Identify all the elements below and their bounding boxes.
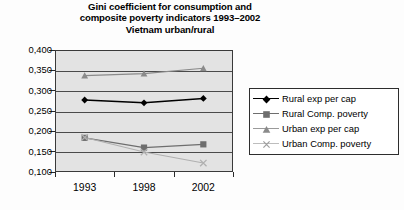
series-rural-comp-poverty xyxy=(82,135,207,151)
legend-marker-diamond-icon xyxy=(253,93,279,105)
y-tick-label: 0,150 xyxy=(6,147,52,156)
y-tick-label: 0,400 xyxy=(6,45,52,54)
series-urban-exp-per-cap xyxy=(81,65,206,79)
legend-label: Rural Comp. poverty xyxy=(279,109,368,119)
x-tick-mark xyxy=(233,172,234,177)
data-point xyxy=(200,95,207,102)
data-point xyxy=(200,141,206,147)
data-point xyxy=(141,99,148,106)
legend-item-urban-comp-poverty: Urban Comp. poverty xyxy=(253,136,395,151)
chart-title-line-2: composite poverty indicators 1993–2002 xyxy=(0,12,340,23)
chart-title-line-3: Vietnam urban/rural xyxy=(0,24,340,35)
chart-legend: Rural exp per cap Rural Comp. poverty Ur… xyxy=(249,88,399,155)
legend-item-urban-exp-per-cap: Urban exp per cap xyxy=(253,121,395,136)
y-tick-label: 0,200 xyxy=(6,126,52,135)
legend-marker-square-icon xyxy=(253,108,279,120)
chart-title-line-1: Gini coefficient for consumption and xyxy=(0,1,340,12)
legend-marker-triangle-icon xyxy=(253,123,279,135)
data-point xyxy=(81,97,88,104)
legend-item-rural-exp-per-cap: Rural exp per cap xyxy=(253,91,395,106)
legend-label: Rural exp per cap xyxy=(279,94,356,104)
x-tick-mark xyxy=(114,172,115,177)
x-tick-mark xyxy=(174,172,175,177)
y-tick-label: 0,100 xyxy=(6,167,52,176)
x-tick-label: 2002 xyxy=(180,182,226,193)
legend-label: Urban exp per cap xyxy=(279,124,359,134)
x-tick-mark xyxy=(55,172,56,177)
x-tick-label: 1998 xyxy=(121,182,167,193)
x-tick-label: 1993 xyxy=(62,182,108,193)
y-tick-label: 0,300 xyxy=(6,86,52,95)
chart-title: Gini coefficient for consumption and com… xyxy=(0,1,340,35)
legend-marker-cross-icon xyxy=(253,138,279,150)
series-rural-exp-per-cap xyxy=(81,95,206,106)
y-tick-label: 0,250 xyxy=(6,106,52,115)
legend-item-rural-comp-poverty: Rural Comp. poverty xyxy=(253,106,395,121)
chart-container: Gini coefficient for consumption and com… xyxy=(0,0,404,210)
data-series-layer xyxy=(55,50,233,172)
legend-label: Urban Comp. poverty xyxy=(279,139,371,149)
y-tick-label: 0,350 xyxy=(6,65,52,74)
